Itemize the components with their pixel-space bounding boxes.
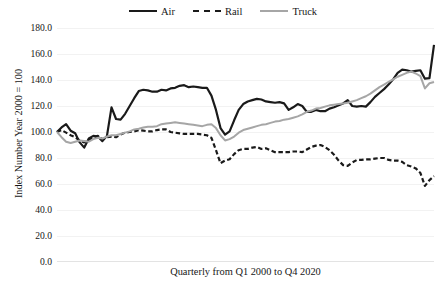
legend-item-air: Air	[129, 6, 175, 17]
series-lines	[57, 28, 434, 262]
y-tick-label: 140.0	[0, 75, 52, 85]
chart-legend: Air Rail Truck	[0, 2, 446, 20]
plot-area	[57, 28, 434, 262]
legend-line-rail-icon	[193, 6, 221, 16]
chart-container: Air Rail Truck Index Number Year 2000 = …	[0, 0, 446, 296]
y-tick-label: 120.0	[0, 101, 52, 111]
y-tick-label: 100.0	[0, 127, 52, 137]
y-tick-label: 160.0	[0, 49, 52, 59]
y-tick-label: 60.0	[0, 179, 52, 189]
y-tick-label: 180.0	[0, 23, 52, 33]
y-tick-label: 40.0	[0, 205, 52, 215]
y-tick-label: 20.0	[0, 231, 52, 241]
y-tick-label: 80.0	[0, 153, 52, 163]
series-line-air	[57, 45, 434, 148]
legend-label-rail: Rail	[225, 6, 243, 17]
x-axis-title: Quarterly from Q1 2000 to Q4 2020	[57, 266, 434, 277]
series-line-truck	[57, 72, 434, 144]
legend-line-air-icon	[129, 6, 157, 16]
legend-label-air: Air	[161, 6, 175, 17]
legend-item-rail: Rail	[193, 6, 243, 17]
legend-item-truck: Truck	[260, 6, 317, 17]
legend-label-truck: Truck	[292, 6, 317, 17]
y-axis-tick-labels: 180.0160.0140.0120.0100.080.060.040.020.…	[0, 0, 52, 296]
series-line-rail	[57, 129, 434, 186]
y-tick-label: 0.0	[0, 257, 52, 267]
legend-line-truck-icon	[260, 6, 288, 16]
